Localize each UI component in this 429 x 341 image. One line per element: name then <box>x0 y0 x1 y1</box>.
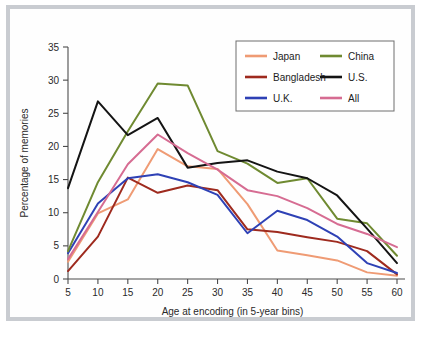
legend-label-all: All <box>348 93 359 104</box>
y-tick-label: 10 <box>48 207 60 218</box>
legend-label-u-s: U.S. <box>348 72 367 83</box>
y-axis-title: Percentage of memories <box>19 109 30 218</box>
figure-root: 05101520253035 51015202530354045505560 A… <box>0 0 429 341</box>
series-lines-group <box>68 83 397 275</box>
x-tick-label: 5 <box>65 287 71 298</box>
x-tick-label: 40 <box>272 287 284 298</box>
y-tick-label: 0 <box>53 274 59 285</box>
y-tick-label: 35 <box>48 42 60 53</box>
x-tick-label: 50 <box>332 287 344 298</box>
figure-frame-border: 05101520253035 51015202530354045505560 A… <box>6 5 415 321</box>
series-line-japan <box>68 149 397 276</box>
series-line-bangladesh <box>68 178 397 275</box>
x-tick-label: 60 <box>391 287 403 298</box>
legend-label-bangladesh: Bangladesh <box>273 72 326 83</box>
x-tick-label: 20 <box>152 287 164 298</box>
y-tick-label: 25 <box>48 108 60 119</box>
chart-legend: JapanChinaBangladeshU.S.U.K.All <box>236 41 394 111</box>
series-line-u-k <box>68 174 397 273</box>
legend-label-china: China <box>348 51 375 62</box>
x-tick-label: 15 <box>122 287 134 298</box>
x-axis-ticks <box>68 279 397 284</box>
y-axis-tick-labels: 05101520253035 <box>48 42 60 285</box>
figure-plot-background: 05101520253035 51015202530354045505560 A… <box>10 9 411 317</box>
x-axis-tick-labels: 51015202530354045505560 <box>65 287 403 298</box>
x-tick-label: 25 <box>182 287 194 298</box>
legend-label-japan: Japan <box>273 51 300 62</box>
y-tick-label: 20 <box>48 141 60 152</box>
x-axis-title: Age at encoding (in 5-year bins) <box>162 306 304 317</box>
x-tick-label: 45 <box>302 287 314 298</box>
x-tick-label: 30 <box>212 287 224 298</box>
y-tick-label: 15 <box>48 174 60 185</box>
y-axis-ticks <box>63 47 68 279</box>
x-tick-label: 55 <box>362 287 374 298</box>
y-tick-label: 5 <box>53 240 59 251</box>
x-tick-label: 35 <box>242 287 254 298</box>
legend-label-u-k: U.K. <box>273 93 292 104</box>
y-tick-label: 30 <box>48 75 60 86</box>
x-tick-label: 10 <box>92 287 104 298</box>
line-chart: 05101520253035 51015202530354045505560 A… <box>10 9 411 317</box>
